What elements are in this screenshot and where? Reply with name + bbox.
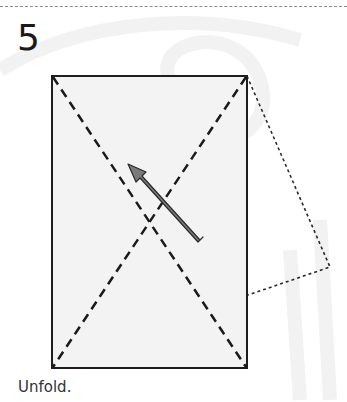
- step-caption: Unfold.: [18, 378, 71, 396]
- step-number: 5: [17, 18, 40, 58]
- fold-diagram: [0, 0, 347, 402]
